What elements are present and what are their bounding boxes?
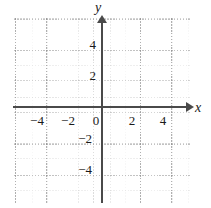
x-tick-label-4: 4: [153, 114, 173, 127]
y-axis-line: [101, 18, 103, 203]
y-tick-label-neg4: −4: [70, 163, 92, 176]
y-tick-label-2: 2: [74, 69, 96, 82]
x-tick-label-neg2: −2: [58, 114, 78, 127]
x-tick-label-neg4: −4: [27, 114, 47, 127]
x-tick-label-2: 2: [122, 114, 142, 127]
y-tick-label-neg2: −2: [70, 132, 92, 145]
x-tick-label-zero: 0: [86, 114, 106, 127]
x-axis-arrow-icon: [186, 102, 194, 112]
y-tick-label-4: 4: [74, 38, 96, 51]
y-axis-arrow-icon: [97, 15, 107, 23]
x-axis-label: x: [195, 101, 201, 115]
coordinate-plane-figure: x y −4 −2 0 2 4 4 2 −2 −4: [0, 0, 211, 208]
y-axis-label: y: [95, 1, 101, 15]
